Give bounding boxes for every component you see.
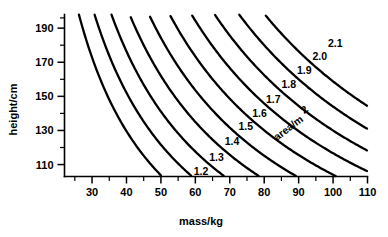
chart-svg: 110130150170190 30405060708090100110 1.2… — [0, 0, 388, 237]
contour-value-label: 1.2 — [194, 165, 209, 177]
contour-value-label: 1.8 — [281, 78, 296, 90]
x-axis-ticks — [75, 177, 368, 184]
y-tick-label: 110 — [36, 159, 54, 171]
contour-value-label: 1.9 — [297, 64, 312, 76]
bsa-nomogram-chart: 110130150170190 30405060708090100110 1.2… — [0, 0, 388, 237]
contour-value-label: 1.4 — [225, 135, 240, 147]
x-tick-label: 60 — [189, 186, 201, 198]
contour-line — [95, 15, 191, 176]
x-axis-tick-labels: 30405060708090100110 — [86, 186, 376, 198]
x-tick-label: 110 — [359, 186, 377, 198]
contour-value-label: 1.7 — [266, 93, 281, 105]
y-tick-label: 190 — [35, 22, 53, 34]
contour-value-label: 1.6 — [252, 107, 267, 119]
x-tick-label: 80 — [258, 186, 270, 198]
x-tick-label: 40 — [120, 186, 132, 198]
x-tick-label: 90 — [293, 186, 305, 198]
x-tick-label: 70 — [224, 186, 236, 198]
series-label-text: area/m — [271, 113, 305, 143]
x-tick-label: 30 — [86, 186, 98, 198]
y-tick-label: 150 — [35, 90, 53, 102]
x-tick-label: 50 — [155, 186, 167, 198]
contour-value-label: 1.5 — [238, 120, 253, 132]
y-tick-label: 130 — [35, 124, 53, 136]
y-tick-label: 170 — [35, 56, 53, 68]
x-axis-title: mass/kg — [179, 215, 223, 227]
x-tick-label: 100 — [324, 186, 342, 198]
contour-value-label: 2.1 — [328, 37, 343, 49]
y-axis-title: height/cm — [7, 83, 19, 135]
contour-value-label: 2.0 — [312, 50, 327, 62]
contour-value-label: 1.3 — [209, 151, 224, 163]
y-axis-tick-labels: 110130150170190 — [35, 22, 53, 170]
y-axis-ticks — [58, 18, 65, 165]
